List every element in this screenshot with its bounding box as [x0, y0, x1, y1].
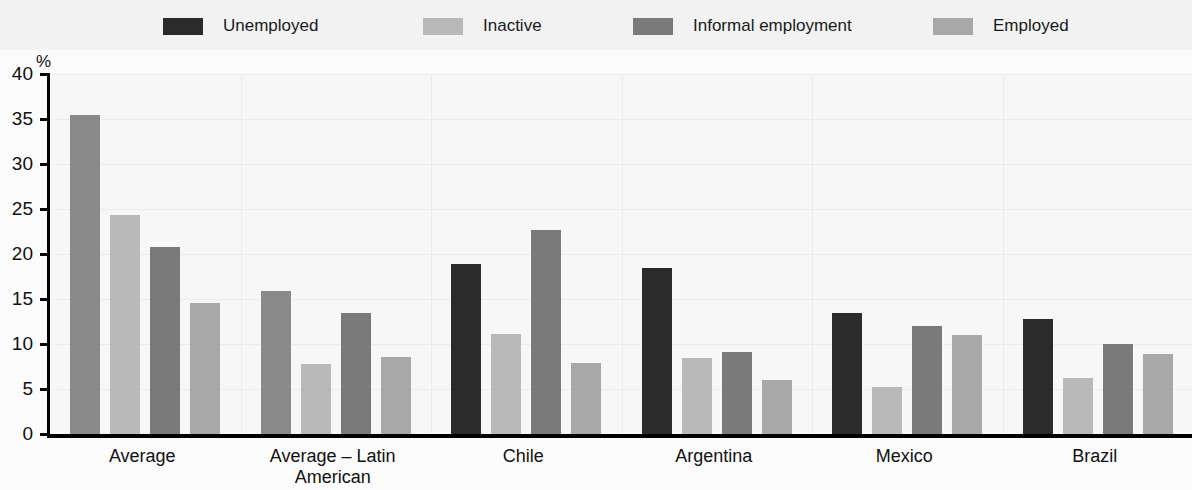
legend-label: Informal employment [693, 16, 852, 36]
y-axis-tick [40, 388, 50, 391]
bar [571, 363, 601, 434]
bar-chart: UnemployedInactiveInformal employmentEmp… [0, 0, 1192, 490]
bar-group [622, 74, 813, 434]
y-axis-label: 35 [0, 109, 33, 128]
x-axis-label: Average [47, 446, 238, 467]
bar-group [1003, 74, 1192, 434]
y-axis-tick [40, 118, 50, 121]
bar [110, 215, 140, 434]
y-axis-tick [40, 298, 50, 301]
x-axis-label: Mexico [809, 446, 1000, 467]
x-axis-label-line: Chile [428, 446, 619, 467]
bar [341, 313, 371, 435]
bar [872, 387, 902, 434]
y-axis-label: 10 [0, 334, 33, 353]
legend-item: Employed [933, 16, 1069, 36]
y-axis-unit-label: % [36, 52, 51, 72]
plot-area [47, 74, 1192, 438]
y-axis-label: 5 [0, 379, 33, 398]
x-axis-label-line: Average – Latin American [238, 446, 429, 487]
bar [912, 326, 942, 434]
bar [1063, 378, 1093, 434]
y-axis-tick [40, 73, 50, 76]
x-axis-label: Chile [428, 446, 619, 467]
chart-legend: UnemployedInactiveInformal employmentEmp… [0, 0, 1192, 50]
bar [190, 303, 220, 434]
y-axis-tick [40, 208, 50, 211]
legend-item: Unemployed [163, 16, 318, 36]
y-axis-label: 0 [0, 424, 33, 443]
bar [1103, 344, 1133, 434]
y-axis-label: 40 [0, 64, 33, 83]
x-axis-label: Argentina [619, 446, 810, 467]
legend-item: Inactive [423, 16, 542, 36]
bar [832, 313, 862, 434]
y-axis-tick [40, 163, 50, 166]
bar [70, 115, 100, 435]
y-axis-tick [40, 433, 50, 436]
y-axis-tick [40, 253, 50, 256]
bar [381, 357, 411, 434]
bar [1143, 354, 1173, 434]
y-axis-tick [40, 343, 50, 346]
bar [952, 335, 982, 434]
legend-label: Unemployed [223, 16, 318, 36]
x-axis-label: Average – Latin Americancountries [238, 446, 429, 490]
bar [642, 268, 672, 434]
legend-swatch-icon [633, 18, 673, 35]
x-axis-label-line: Average [47, 446, 238, 467]
bar [682, 358, 712, 434]
legend-label: Inactive [483, 16, 542, 36]
bar [762, 380, 792, 434]
bar [1023, 319, 1053, 434]
legend-swatch-icon [163, 18, 203, 35]
bar-group [431, 74, 622, 434]
bar [531, 230, 561, 434]
bar-group [241, 74, 432, 434]
legend-label: Employed [993, 16, 1069, 36]
bar [491, 334, 521, 434]
bar [261, 291, 291, 434]
x-axis-label-line: Mexico [809, 446, 1000, 467]
bar [301, 364, 331, 434]
bar [451, 264, 481, 434]
bar-group [812, 74, 1003, 434]
y-axis-label: 15 [0, 289, 33, 308]
legend-item: Informal employment [633, 16, 852, 36]
x-axis-label-line: Argentina [619, 446, 810, 467]
bar-group [50, 74, 241, 434]
y-axis-label: 25 [0, 199, 33, 218]
y-axis-label: 20 [0, 244, 33, 263]
bar [150, 247, 180, 434]
x-axis-label-line: Brazil [1000, 446, 1191, 467]
bar [722, 352, 752, 434]
legend-swatch-icon [933, 18, 973, 35]
y-axis-label: 30 [0, 154, 33, 173]
legend-swatch-icon [423, 18, 463, 35]
x-axis-label: Brazil [1000, 446, 1191, 467]
